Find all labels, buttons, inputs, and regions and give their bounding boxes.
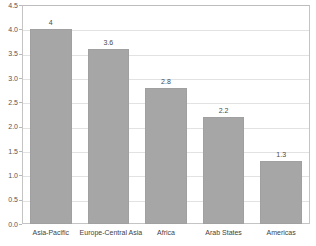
y-axis-tick-label: 3.0 (0, 75, 18, 82)
bar-slot: 1.3 (252, 5, 310, 224)
bar-slot: 2.8 (137, 5, 195, 224)
y-axis-tick-label: 2.5 (0, 99, 18, 106)
y-axis-tick-label: 2.0 (0, 123, 18, 130)
x-axis-label: Africa (137, 228, 195, 237)
x-axis-label: Asia-Pacific (22, 228, 80, 237)
bar-slot: 3.6 (80, 5, 138, 224)
bar-value-label: 2.8 (137, 78, 195, 85)
bars-layer: 43.62.82.21.3 (22, 5, 310, 224)
x-axis-label: Americas (252, 228, 310, 237)
y-axis-tick-label: 3.5 (0, 50, 18, 57)
x-axis-label: Arab States (195, 228, 253, 237)
bar[interactable] (88, 49, 129, 224)
x-axis-category-labels: Asia-PacificEurope-Central AsiaAfricaAra… (22, 228, 310, 242)
y-axis-tick-mark (19, 224, 22, 225)
bar[interactable] (145, 88, 186, 224)
y-axis-tick-label: 4.5 (0, 2, 18, 9)
y-axis-tick-label: 4.0 (0, 26, 18, 33)
bar[interactable] (260, 161, 301, 224)
chart-title (0, 0, 316, 2)
bar-chart: 4.54.03.53.02.52.01.51.00.50.0 43.62.82.… (0, 0, 316, 246)
bar-value-label: 3.6 (80, 39, 138, 46)
bar-slot: 4 (22, 5, 80, 224)
bar-slot: 2.2 (195, 5, 253, 224)
y-axis-tick-label: 1.5 (0, 148, 18, 155)
bar-value-label: 1.3 (252, 151, 310, 158)
bar[interactable] (203, 117, 244, 224)
bar-value-label: 4 (22, 19, 80, 26)
y-axis-tick-label: 1.0 (0, 172, 18, 179)
bar[interactable] (30, 29, 71, 224)
y-axis-tick-label: 0.0 (0, 221, 18, 228)
y-axis-tick-label: 0.5 (0, 196, 18, 203)
bar-value-label: 2.2 (195, 107, 253, 114)
x-axis-label: Europe-Central Asia (80, 228, 138, 237)
